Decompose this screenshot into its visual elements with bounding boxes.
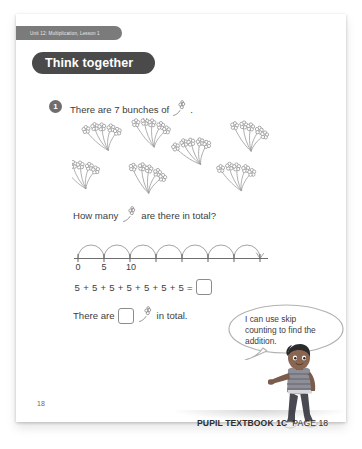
number-line-label-0: 0 [75,262,80,272]
equation-term: 5 [127,282,132,293]
equation-term: 5 [109,282,114,293]
total-sentence-after: in total. [157,310,188,321]
bunch-6 [125,160,168,195]
equation-operator: + [118,282,124,293]
equation-operator: + [170,282,176,293]
bunch-3 [170,133,215,171]
unit-banner-label: Unit 12: Multiplication, Lesson 1 [30,31,100,36]
equation-term: 5 [92,282,97,293]
total-sentence-before: There are [73,310,115,321]
bunch-7 [216,161,256,191]
equation-term: 5 [161,282,166,293]
question-prompt: There are 7 bunches of . [70,100,193,119]
equation-term: 5 [75,282,80,293]
equation-operator: + [135,282,141,293]
flower-icon [137,306,154,325]
equation-equals: = [187,282,193,293]
how-many-question: How many are there in total? [73,206,216,225]
think-together-heading: Think together [32,52,155,74]
question-prompt-period: . [190,104,193,115]
bunch-4 [227,119,270,153]
flower-icon [121,206,138,225]
think-together-label: Think together [45,56,133,70]
equation-operator: + [152,282,158,293]
how-many-before-text: How many [73,210,118,221]
bunch-1 [81,120,123,153]
equation-operator: + [83,282,89,293]
page-number: 18 [37,400,45,407]
textbook-page-card: Unit 12: Multiplication, Lesson 1 Think … [16,14,346,422]
bunch-5 [72,159,101,191]
number-line-label-5: 5 [101,262,106,272]
equation-term: 5 [179,282,184,293]
footer-page-label: PAGE 18 [292,418,328,428]
total-sentence: There are in total. [73,306,188,325]
question-number-badge: 1 [49,100,62,113]
unit-banner: Unit 12: Multiplication, Lesson 1 [16,26,122,40]
addition-equation: 5 + 5 + 5 + 5 + 5 + 5 + 5 = [73,279,212,295]
bunch-2 [130,118,171,148]
equation-operator: + [100,282,106,293]
question-prompt-text: There are 7 bunches of [70,104,169,115]
flower-icon [171,100,188,119]
equation-answer-box[interactable] [196,279,212,295]
footer: PUPIL TEXTBOOK 1C PAGE 18 [197,418,328,428]
question-number-label: 1 [53,102,57,111]
number-line-jumps [78,245,264,259]
footer-book-title: PUPIL TEXTBOOK 1C [197,418,287,428]
speech-bubble-text: I can use skip counting to find the addi… [245,314,329,347]
flower-bunches-illustration [72,118,304,200]
number-line-label-10: 10 [126,262,136,272]
equation-term: 5 [144,282,149,293]
total-answer-box[interactable] [118,308,134,324]
number-line-diagram: 0 5 10 [70,228,275,276]
how-many-after-text: are there in total? [141,210,216,221]
